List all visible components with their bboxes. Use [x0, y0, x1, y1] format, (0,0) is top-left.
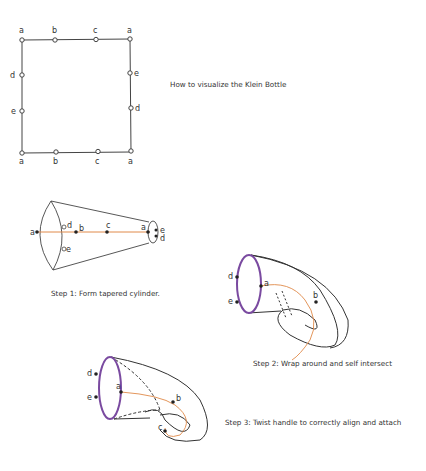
s1-label-a-right: a [141, 223, 146, 232]
step2-caption: Step 2: Wrap around and self intersect [253, 359, 392, 368]
s3-label-c: c [158, 423, 162, 432]
s1-label-c: c [106, 221, 110, 230]
label-left-e: e [11, 107, 16, 116]
page-title: How to visualize the Klein Bottle [170, 80, 287, 89]
s1-label-d-right: d [160, 234, 165, 243]
step2-shape [248, 255, 348, 348]
s1-label-b: b [79, 224, 84, 233]
tapered-cylinder [40, 201, 158, 270]
s2-label-e: e [228, 297, 233, 306]
label-top-c: c [93, 26, 97, 35]
step1-caption: Step 1: Form tapered cylinder. [51, 289, 160, 298]
s2-label-d: d [228, 272, 233, 281]
label-bottom-c: c [95, 157, 99, 166]
s3-label-a: a [116, 382, 121, 391]
label-right-e: e [134, 69, 139, 78]
label-right-d: d [135, 104, 140, 113]
s2-label-b: b [313, 291, 318, 300]
s3-label-d: d [87, 369, 92, 378]
label-top-a1: a [19, 26, 24, 35]
s1-label-e: e [66, 245, 71, 254]
step2-rim [237, 255, 261, 313]
label-left-d: d [10, 71, 15, 80]
square-points [20, 37, 133, 155]
label-bottom-a2: a [128, 157, 133, 166]
label-top-b: b [52, 26, 57, 35]
fundamental-square [22, 39, 131, 153]
label-bottom-a1: a [19, 157, 24, 166]
step3-caption: Step 3: Twist handle to correctly align … [225, 418, 401, 427]
label-top-a2: a [127, 26, 132, 35]
s3-label-b: b [176, 394, 181, 403]
s1-label-d: d [67, 221, 72, 230]
s1-label-a-left: a [30, 228, 35, 237]
klein-bottle-diagram: a b c a d e e d a b c a How to visualize… [0, 0, 426, 471]
s2-label-a: a [264, 279, 269, 288]
label-bottom-b: b [53, 157, 58, 166]
s3-label-e: e [87, 393, 92, 402]
